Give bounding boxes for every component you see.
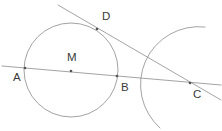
label-c: C xyxy=(193,88,201,100)
line-a-to-c xyxy=(2,66,221,85)
lines-group xyxy=(2,5,221,100)
labels-group: A B C D M xyxy=(13,10,201,100)
point-m-center xyxy=(70,70,73,73)
point-c xyxy=(189,82,192,85)
point-b xyxy=(116,75,119,78)
point-a xyxy=(24,67,27,70)
label-a: A xyxy=(13,71,21,83)
point-d xyxy=(96,28,99,31)
geometry-figure: A B C D M xyxy=(0,0,222,131)
tangent-line-d-to-c xyxy=(58,5,221,100)
geometry-canvas: A B C D M xyxy=(0,0,222,131)
label-b: B xyxy=(121,81,129,93)
arc-centered-at-c xyxy=(141,27,205,128)
label-m: M xyxy=(67,51,77,63)
label-d: D xyxy=(102,10,110,22)
